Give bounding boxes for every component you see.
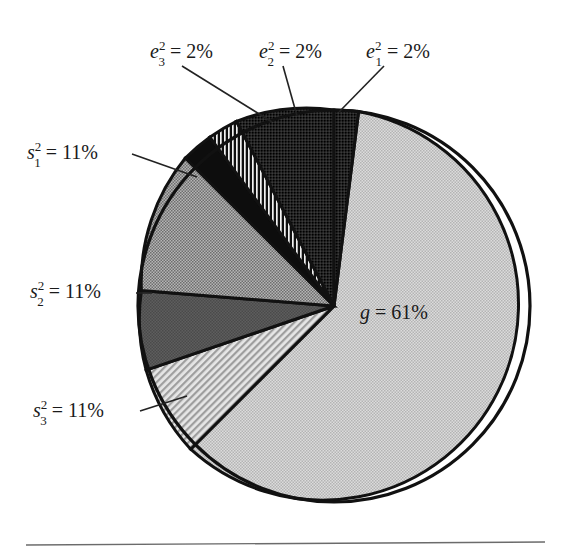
slice-label-s1: s21 = 11%: [27, 139, 98, 170]
slice-label-g: g = 61%: [360, 301, 428, 324]
slice-label-e2: e22 = 2%: [259, 38, 322, 69]
bottom-horizontal-rule: [26, 542, 545, 545]
leader-line-e3: [182, 66, 272, 122]
slice-label-e2-eq: = 2%: [274, 40, 322, 62]
slice-label-e1-var: e: [366, 40, 375, 62]
slice-label-s1-eq: = 11%: [41, 141, 98, 163]
slice-label-g-var: g: [360, 301, 370, 324]
slice-label-g-eq: = 61%: [370, 301, 428, 323]
slice-label-s2-eq: = 11%: [44, 280, 101, 302]
slice-label-s3-eq: = 11%: [47, 399, 104, 421]
slice-label-e1-eq: = 2%: [382, 40, 430, 62]
slice-label-e1: e21 = 2%: [366, 38, 430, 69]
slice-label-e3: e23 = 2%: [150, 38, 213, 69]
slice-label-e3-eq: = 2%: [165, 40, 213, 62]
figure-page: e23 = 2% e22 = 2% e21 = 2% s21 = 11% s22…: [0, 0, 561, 558]
slice-label-e1-sup: 2: [375, 38, 382, 53]
pie-chart-figure: e23 = 2% e22 = 2% e21 = 2% s21 = 11% s22…: [0, 0, 561, 558]
slice-label-s2: s22 = 11%: [30, 278, 101, 309]
leader-line-e1: [339, 66, 384, 112]
slice-label-s3: s23 = 11%: [33, 397, 104, 428]
pie-slices: [138, 108, 530, 502]
